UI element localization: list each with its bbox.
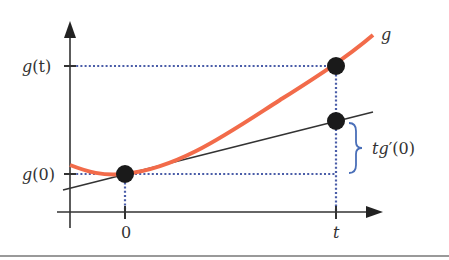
y-label-g-0: g(0): [22, 165, 55, 184]
brace-label-tg-prime-0: tg′(0): [372, 139, 415, 158]
curve-label-g: g: [381, 25, 391, 44]
point-at-0: [116, 165, 134, 183]
x-axis-arrowhead-icon: [366, 206, 383, 218]
y-label-g-0-func: g: [22, 165, 32, 184]
point-tangent-at-t: [327, 112, 345, 130]
tangent-line: [63, 112, 373, 190]
tangent-line-diagram: g g(t) g(0) 0 t tg′(0): [0, 0, 449, 260]
y-axis-arrowhead-icon: [64, 21, 76, 38]
x-label-0: 0: [121, 223, 131, 242]
y-label-g-0-arg: (0): [32, 165, 55, 184]
brace-icon: [349, 123, 362, 173]
brace-label-arg: (0): [392, 139, 415, 158]
x-label-t: t: [333, 223, 340, 242]
brace-label-g: g: [378, 139, 388, 158]
axes: [57, 34, 370, 228]
curve-g: [70, 35, 373, 175]
y-label-g-t: g(t): [22, 57, 51, 76]
y-label-g-t-func: g: [22, 57, 32, 76]
point-g-at-t: [327, 57, 345, 75]
y-label-g-t-arg: (t): [32, 57, 51, 76]
